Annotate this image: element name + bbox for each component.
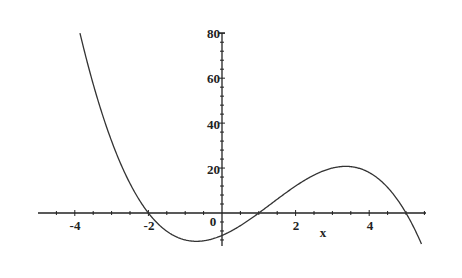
x-tick-label-neg4: -4 [70,218,81,233]
function-curve [80,33,422,244]
x-tick-label-2: 2 [293,218,300,233]
x-minor-ticks [56,210,424,216]
x-tick-label-neg2: -2 [144,218,155,233]
x-axis-label: x [320,225,327,240]
y-tick-label-40: 40 [207,117,220,132]
y-tick-label-20: 20 [207,162,220,177]
x-tick-label-4: 4 [367,218,374,233]
function-plot: -4 -2 0 2 4 80 60 40 20 x [0,0,462,278]
y-tick-label-80: 80 [207,26,220,41]
origin-label: 0 [210,214,217,229]
y-tick-label-60: 60 [207,71,220,86]
